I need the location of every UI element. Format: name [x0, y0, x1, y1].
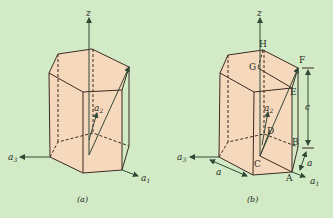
- point-h-label: H: [259, 39, 267, 49]
- point-e-label: E: [290, 87, 297, 97]
- caption-a: (a): [77, 195, 88, 204]
- a1-label-a: a1: [141, 173, 150, 184]
- point-d-label: D: [267, 126, 274, 136]
- point-c-label: C: [254, 159, 261, 169]
- a-dimension-arrow-right: [300, 152, 306, 170]
- c-dimension-label: c: [305, 102, 310, 112]
- a-dimension-label-bottom: a: [216, 167, 221, 177]
- hexagonal-lattice-diagram: z a3 a1 a2 (a): [0, 0, 333, 218]
- z-label-a: z: [85, 8, 91, 18]
- point-g-label: G: [249, 62, 256, 72]
- a3-label-b: a3: [177, 152, 186, 163]
- figure-a: z a3 a1 a2 (a): [8, 8, 150, 204]
- caption-b: (b): [247, 195, 258, 204]
- a-dimension-label-right: a: [307, 158, 312, 168]
- a3-label-a: a3: [8, 152, 17, 163]
- a1-label-b: a1: [310, 176, 319, 187]
- z-label-b: z: [256, 8, 262, 18]
- a1-axis-a: [122, 170, 138, 176]
- point-a-label: A: [285, 173, 293, 183]
- point-b-label: B: [292, 137, 299, 147]
- figure-b: z a3 a1 a2 H G F E D B C A c a a (b): [177, 8, 319, 204]
- point-f-label: F: [299, 55, 305, 65]
- a1-axis-b: [292, 172, 305, 177]
